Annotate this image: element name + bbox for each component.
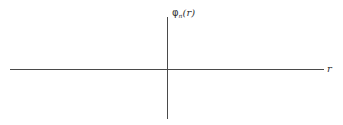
- y-axis-symbol: φ: [172, 7, 179, 18]
- y-axis-label: φn(r): [172, 8, 195, 19]
- vertical-axis-line: [167, 17, 168, 119]
- y-axis-argument: (r): [182, 7, 195, 18]
- x-axis-label: r: [327, 64, 332, 74]
